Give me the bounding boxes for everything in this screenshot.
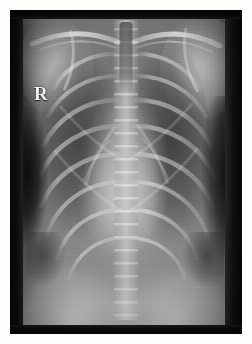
laterality-marker-r: R bbox=[34, 84, 48, 103]
radiograph-page: R bbox=[0, 0, 252, 344]
film-grain-texture bbox=[10, 10, 242, 334]
xray-film-plate: R bbox=[10, 10, 242, 334]
